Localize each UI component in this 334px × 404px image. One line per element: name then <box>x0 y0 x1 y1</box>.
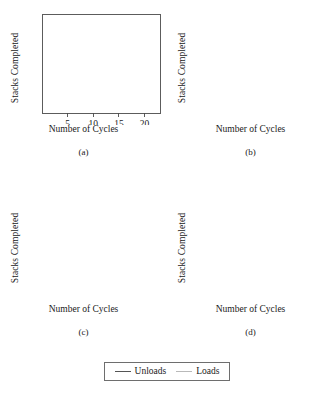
legend-item-loads: Loads <box>176 366 219 376</box>
panel-label-c: (c) <box>0 327 167 337</box>
plot-frame <box>42 14 160 113</box>
x-axis-label: Number of Cycles <box>167 304 334 314</box>
legend-label-loads: Loads <box>196 366 219 376</box>
panel-b-svg <box>167 0 334 125</box>
legend-item-unloads: Unloads <box>115 366 167 376</box>
figure-panel-grid: Stacks Completed 5101520 Number of Cycle… <box>0 0 334 360</box>
panel-a-svg: 5101520 <box>0 0 167 125</box>
panel-label-a: (a) <box>0 147 167 157</box>
legend-line-loads-icon <box>176 371 192 372</box>
panel-d-svg <box>167 180 334 305</box>
panel-label-b: (b) <box>167 147 334 157</box>
panel-c-svg <box>0 180 167 305</box>
x-axis-label: Number of Cycles <box>167 124 334 134</box>
legend-label-unloads: Unloads <box>135 366 167 376</box>
panel-label-d: (d) <box>167 327 334 337</box>
legend-line-unloads-icon <box>115 371 131 372</box>
panel-b: Stacks Completed Number of Cycles (b) <box>167 0 334 180</box>
legend-box: Unloads Loads <box>104 362 231 381</box>
x-axis-label: Number of Cycles <box>0 124 167 134</box>
figure-legend: Unloads Loads <box>0 362 334 381</box>
panel-d: Stacks Completed Number of Cycles (d) <box>167 180 334 360</box>
x-axis-label: Number of Cycles <box>0 304 167 314</box>
panel-c: Stacks Completed Number of Cycles (c) <box>0 180 167 360</box>
panel-a: Stacks Completed 5101520 Number of Cycle… <box>0 0 167 180</box>
